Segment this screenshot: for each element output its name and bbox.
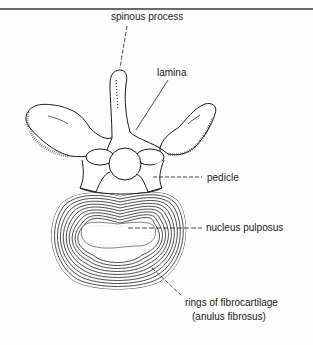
label-rings-of-fibrocartilage: rings of fibrocartilage [185,297,278,309]
vertebra-illustration [0,0,313,345]
nucleus-pulposus-shape [81,222,155,248]
label-spinous-process: spinous process [111,11,183,23]
label-nucleus-pulposus: nucleus pulposus [206,222,283,234]
label-lamina: lamina [157,67,186,79]
label-pedicle: pedicle [207,172,239,184]
vertebral-arch [26,70,216,194]
label-anulus-fibrosus: (anulus fibrosus) [192,311,266,323]
